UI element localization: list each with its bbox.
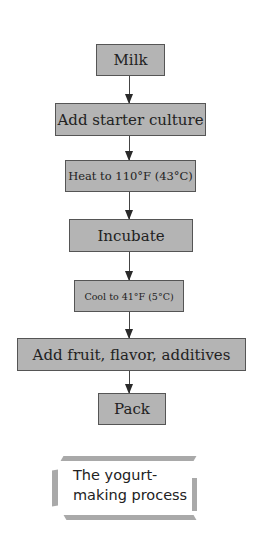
step-pack: Pack [98,393,166,425]
step-label: Heat to 110°F (43°C) [68,169,193,183]
arrow-down-icon [129,371,130,393]
step-heat: Heat to 110°F (43°C) [65,160,196,192]
step-label: Incubate [97,227,164,245]
step-cool: Cool to 41°F (5°C) [74,280,184,312]
arrow-down-icon [129,136,130,160]
caption-frame-top [61,456,197,461]
step-label: Pack [114,400,150,418]
step-incubate: Incubate [69,219,193,252]
arrow-down-icon [129,312,130,338]
step-label: Add fruit, flavor, additives [33,346,231,364]
step-add-starter-culture: Add starter culture [55,103,206,136]
figure-caption: The yogurt- making process [50,455,200,521]
step-milk: Milk [96,44,165,76]
caption-frame-left [52,470,58,507]
arrow-down-icon [129,252,130,280]
step-label: Milk [113,51,147,69]
caption-text: The yogurt- making process [73,465,187,505]
step-add-fruit-flavor-additives: Add fruit, flavor, additives [17,338,246,371]
caption-frame-bottom [64,515,197,520]
caption-frame-right [192,478,197,511]
step-label: Add starter culture [57,111,203,129]
arrow-down-icon [129,76,130,103]
step-label: Cool to 41°F (5°C) [84,291,173,302]
arrow-down-icon [129,192,130,219]
